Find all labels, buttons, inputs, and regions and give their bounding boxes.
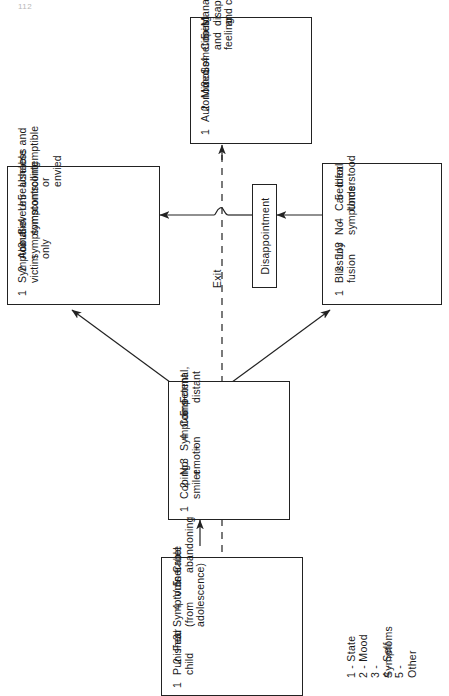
item-number: 1	[179, 499, 191, 512]
item-number: 5	[17, 187, 29, 200]
item-label: Manageably disappointing and caring	[200, 0, 235, 26]
list-item: 1 Coping smiler	[179, 488, 202, 512]
list-item: 2 Mixed	[200, 87, 212, 111]
item-number: 4	[179, 427, 191, 440]
list-item: 2 Joy	[334, 248, 346, 272]
item-number: 2	[334, 259, 346, 272]
list-item: 2 About symptoms only	[17, 248, 52, 272]
node-autonomous-items: 1 Autonomous 2 Mixed 3 Sometimes 4 Copin…	[200, 15, 235, 135]
list-item: 2 Fear	[172, 640, 184, 664]
item-number: 5	[200, 26, 212, 39]
list-item: 3 No symptoms	[334, 224, 357, 248]
node-coping-smiler[interactable]: 1 Coping smiler 2 No emotion 3 Symptoms …	[168, 381, 290, 520]
item-number: 5	[179, 403, 191, 416]
list-item: 5 Ideal	[334, 176, 346, 200]
node-punished-child[interactable]: 1 Punished child 2 Fear 3 Symptoms + (fr…	[161, 557, 303, 696]
node-symptomatic-victim[interactable]: 1 Symptomatic victim 2 About symptoms on…	[7, 166, 160, 305]
item-label: Useless and contemptible or envied	[17, 126, 63, 187]
list-item: 3 Sometimes	[200, 63, 212, 87]
item-number: 4	[172, 597, 184, 610]
list-item: 1 Symptomatic victim	[17, 272, 40, 296]
list-item: 5 Useless and contemptible or envied	[17, 176, 63, 200]
item-number: 4	[200, 50, 212, 63]
item-number: 2	[200, 98, 212, 111]
item-number: 2	[179, 475, 191, 488]
list-item: 5 Cruel abandoning	[172, 562, 195, 586]
center-to-left-arrow	[72, 310, 174, 385]
legend-line: 4 - Self	[381, 642, 394, 678]
node-symptomatic-victim-items: 1 Symptomatic victim 2 About symptoms on…	[17, 176, 63, 296]
item-label: Formal, distant	[179, 366, 202, 403]
node-punished-child-items: 1 Punished child 2 Fear 3 Symptoms + (fr…	[172, 562, 207, 688]
list-item: 1 Blissful fusion	[334, 272, 357, 296]
legend: 1 - State 2 - Mood 3 - Symptoms 4 - Self…	[345, 600, 435, 680]
list-item: 4 Vulnerable	[172, 586, 184, 610]
item-number: 5	[334, 187, 346, 200]
legend-line: 1 - State	[345, 636, 358, 678]
item-number: 4	[334, 211, 346, 224]
transition-label-text: Disappointment	[259, 197, 271, 274]
item-number: 1	[200, 122, 212, 135]
node-autonomous[interactable]: 1 Autonomous 2 Mixed 3 Sometimes 4 Copin…	[190, 17, 312, 144]
item-number: 2	[17, 259, 29, 272]
list-item: 3 Symptoms + (from adolescence)	[172, 610, 207, 640]
list-item: 1 Autonomous	[200, 111, 212, 135]
exit-label: Exit	[211, 269, 224, 288]
item-number: 5	[172, 573, 184, 586]
list-item: 4 Competent	[179, 416, 191, 440]
transition-label-disappointment[interactable]: Disappointment	[252, 184, 277, 288]
legend-line: 2 - Mood	[357, 634, 370, 678]
list-item: 1 Punished child	[172, 664, 195, 688]
item-number: 3	[200, 74, 212, 87]
list-item: 3 Symptoms +	[179, 440, 202, 464]
item-number: 3	[172, 627, 184, 640]
list-item: 5 Manageably disappointing and caring	[200, 15, 235, 39]
page-folio: 112	[18, 2, 32, 11]
item-number: 3	[179, 451, 191, 464]
disappointment-flow	[160, 208, 322, 215]
item-label: Ideal	[334, 163, 346, 187]
node-blissful-fusion-items: 1 Blissful fusion 2 Joy 3 No symptoms 4 …	[334, 176, 357, 296]
list-item: 5 Formal, distant	[179, 392, 202, 416]
legend-line: 5 - Other	[393, 636, 418, 678]
node-coping-smiler-items: 1 Coping smiler 2 No emotion 3 Symptoms …	[179, 392, 202, 512]
list-item: 4 Coping and feeling	[200, 39, 235, 63]
item-number: 2	[172, 651, 184, 664]
node-blissful-fusion[interactable]: 1 Blissful fusion 2 Joy 3 No symptoms 4 …	[322, 163, 442, 305]
item-number: 1	[17, 283, 29, 296]
list-item: 4 Unreachable controlling	[17, 200, 40, 224]
item-number: 1	[334, 283, 346, 296]
item-number: 3	[17, 235, 29, 248]
list-item: 3 Severe symptoms	[17, 224, 40, 248]
item-number: 4	[17, 211, 29, 224]
item-label: Cruel abandoning	[172, 517, 195, 573]
item-number: 3	[334, 235, 346, 248]
item-number: 1	[172, 675, 184, 688]
list-item: 4 Cared for Understood	[334, 200, 357, 224]
center-to-right-arrow	[228, 310, 330, 385]
list-item: 2 No emotion	[179, 464, 202, 488]
